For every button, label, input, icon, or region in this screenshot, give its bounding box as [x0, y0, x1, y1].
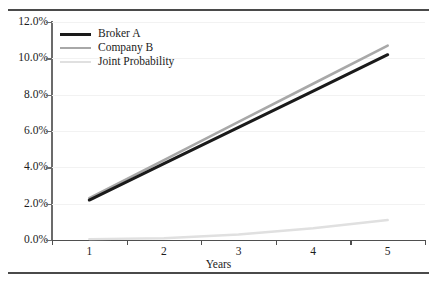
- x-axis-tick: [52, 240, 53, 245]
- legend-swatch-icon: [60, 61, 91, 63]
- y-axis-tick-label: 8.0%: [4, 89, 48, 101]
- series-line: [89, 220, 387, 239]
- series-line: [89, 55, 387, 200]
- x-axis-tick-label: 1: [69, 246, 109, 258]
- figure-bottom-rule: [8, 272, 429, 274]
- figure-container: 12.0%10.0%8.0%6.0%4.0%2.0%0.0% 12345 Yea…: [0, 0, 437, 284]
- x-axis-title: Years: [0, 259, 437, 271]
- y-axis-tick-label: 2.0%: [4, 198, 48, 210]
- figure-top-rule: [8, 9, 429, 11]
- chart-legend: Broker ACompany BJoint Probability: [60, 27, 174, 69]
- x-axis-tick: [201, 240, 202, 245]
- legend-label: Broker A: [98, 28, 140, 40]
- y-axis-labels: 12.0%10.0%8.0%6.0%4.0%2.0%0.0%: [0, 0, 48, 284]
- y-axis-tick: [46, 22, 52, 23]
- y-axis-tick: [46, 240, 52, 241]
- y-axis-tick-label: 10.0%: [4, 52, 48, 64]
- x-axis-tick: [276, 240, 277, 245]
- legend-item[interactable]: Broker A: [60, 27, 174, 41]
- legend-swatch-icon: [60, 47, 91, 49]
- y-axis-tick-label: 4.0%: [4, 161, 48, 173]
- y-axis-tick-label: 0.0%: [4, 234, 48, 246]
- x-axis-tick: [350, 240, 351, 245]
- x-axis-tick: [425, 240, 426, 245]
- y-axis-tick: [46, 95, 52, 96]
- x-axis-tick-label: 5: [368, 246, 408, 258]
- legend-label: Company B: [98, 42, 153, 54]
- y-axis-tick-label: 6.0%: [4, 125, 48, 137]
- x-axis-tick: [127, 240, 128, 245]
- x-axis-tick-label: 3: [219, 246, 259, 258]
- legend-swatch-icon: [60, 33, 91, 36]
- legend-item[interactable]: Joint Probability: [60, 55, 174, 69]
- legend-label: Joint Probability: [98, 56, 174, 68]
- y-axis-tick-label: 12.0%: [4, 16, 48, 28]
- y-axis-tick: [46, 167, 52, 168]
- y-axis-tick: [46, 131, 52, 132]
- x-axis-tick-label: 4: [293, 246, 333, 258]
- y-axis-tick: [46, 204, 52, 205]
- y-axis-tick: [46, 58, 52, 59]
- x-axis-tick-label: 2: [144, 246, 184, 258]
- legend-item[interactable]: Company B: [60, 41, 174, 55]
